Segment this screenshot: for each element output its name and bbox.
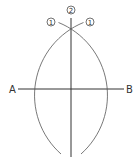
- svg-text:1: 1: [49, 19, 53, 27]
- svg-text:1: 1: [88, 19, 92, 27]
- arc-from-a: [59, 23, 108, 155]
- step-2-marker: 2: [67, 6, 75, 15]
- point-a-label: A: [9, 84, 16, 95]
- step-1-left-marker: 1: [47, 18, 55, 27]
- arc-from-b: [35, 23, 84, 155]
- point-b-label: B: [126, 84, 133, 95]
- step-1-right-marker: 1: [86, 18, 94, 27]
- perpendicular-bisector-diagram: A B 1 2 1: [0, 0, 138, 162]
- svg-text:2: 2: [69, 7, 73, 15]
